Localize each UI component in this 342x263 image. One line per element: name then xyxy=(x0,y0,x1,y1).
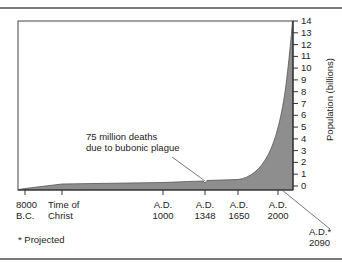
x-axis-ticks xyxy=(25,190,278,195)
2090-leader-line xyxy=(282,190,330,229)
x-label-2090: A.D.* 2090 xyxy=(309,226,331,248)
x-label-1000: A.D. 1000 xyxy=(152,199,173,221)
x-label-1348: A.D. 1348 xyxy=(194,199,215,221)
x-label-time-of-christ: Time of Christ xyxy=(48,199,79,221)
footnote-projected: * Projected xyxy=(18,234,64,245)
y-axis-title: Population (billions) xyxy=(324,50,335,150)
x-label-2000: A.D. 2000 xyxy=(267,199,288,221)
x-label-8000bc: 8000 B.C. xyxy=(16,199,37,221)
plague-annotation: 75 million deaths due to bubonic plague xyxy=(86,131,180,153)
plot-frame xyxy=(18,21,293,190)
x-label-1650: A.D. 1650 xyxy=(228,199,249,221)
y-axis-ticks xyxy=(293,21,298,186)
